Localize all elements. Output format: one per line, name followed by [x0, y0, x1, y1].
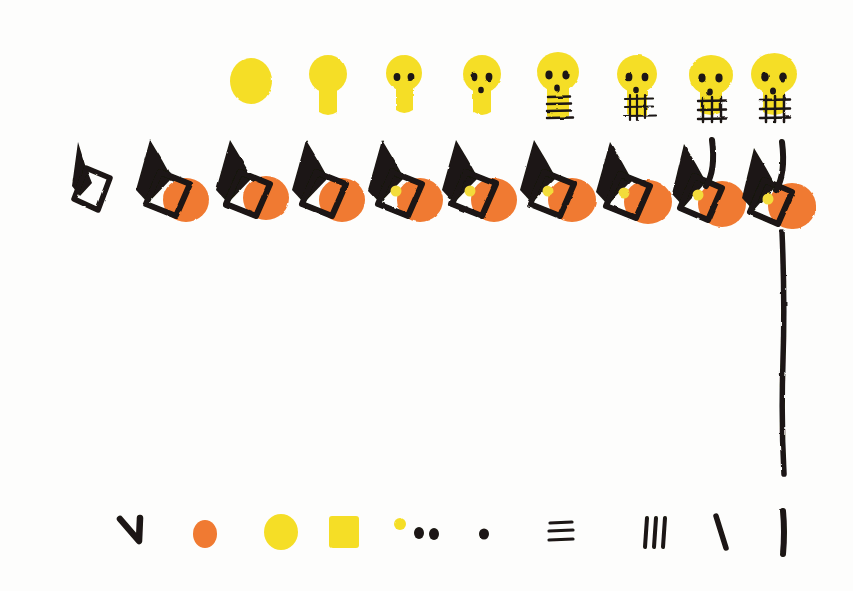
figure-yellow-dot: [391, 186, 402, 197]
skull-eye-left: [545, 71, 552, 80]
skull-eye-right: [642, 73, 649, 81]
figure-yellow-dot: [465, 186, 476, 197]
legend-yellow-square: [329, 516, 359, 548]
skull-eye-left: [394, 73, 401, 81]
skull-eye-left: [698, 74, 705, 83]
skull-eye-left: [761, 72, 769, 81]
skull-nose: [707, 89, 713, 96]
skull-teeth-grid: [624, 95, 656, 120]
skull-eye-left: [626, 73, 633, 81]
legend-orange-dot: [193, 520, 217, 548]
legend-small-yellow-dot: [394, 518, 406, 530]
skull-eye-right: [715, 74, 722, 83]
artwork-svg: [0, 0, 853, 591]
skull-eye-right: [408, 73, 415, 81]
figure-yellow-dot: [619, 188, 630, 199]
legend-single-black-dot: [479, 529, 489, 540]
skull-blob: [230, 58, 272, 104]
legend-yellow-circle: [264, 514, 298, 550]
skull-nose: [770, 87, 776, 94]
long-vertical-line: [782, 232, 784, 474]
artwork-canvas: [0, 0, 853, 591]
skull-eye-right: [779, 72, 787, 81]
skull-teeth-grid: [698, 97, 726, 122]
skull-eye-right: [562, 71, 569, 80]
skull-nose: [554, 85, 560, 92]
legend-vertical-stroke: [783, 511, 784, 554]
skull-eye-right: [486, 73, 493, 81]
skull-eye-left: [471, 73, 478, 81]
skull-teeth-grid: [760, 96, 790, 122]
skull-nose: [478, 87, 484, 93]
skull-nose: [633, 87, 639, 93]
figure-yellow-dot: [763, 194, 774, 205]
figure-yellow-dot: [543, 186, 554, 197]
figure-yellow-dot: [693, 190, 704, 201]
